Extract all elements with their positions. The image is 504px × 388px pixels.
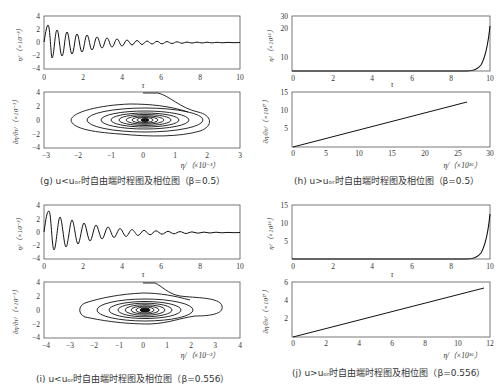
xtick: 4 xyxy=(357,339,361,348)
caption-g: (g) u<uₒᵣ时自由端时程图及相位图（β=0.5） xyxy=(40,174,225,187)
g-time-plot: 4 2 0 −2 −4 0 2 4 6 8 10 τ η/（×10⁻³） xyxy=(16,12,244,90)
h-phase-plot: 15 10 5 0 5 10 15 20 25 30 η/（×10¹⁶） ∂η/… xyxy=(262,88,494,170)
panel-g-plots: 4 2 0 −2 −4 0 2 4 6 8 10 τ η/（×10⁻³） 4 xyxy=(0,0,252,190)
y-axis-label: η/（×10⁻³） xyxy=(16,214,24,251)
panel-h: 30 20 10 0 2 4 6 8 10 τ η/（×10¹⁶） 15 10 … xyxy=(252,0,504,190)
xtick: 4 xyxy=(370,262,374,271)
xtick: 3 xyxy=(238,151,242,160)
xtick: 8 xyxy=(449,74,453,83)
xtick: 5 xyxy=(324,149,328,158)
xtick: −1 xyxy=(115,341,123,350)
panel-h-plots: 30 20 10 0 2 4 6 8 10 τ η/（×10¹⁶） 15 10 … xyxy=(252,0,504,190)
ytick: 15 xyxy=(281,88,289,97)
ytick: 10 xyxy=(281,53,289,62)
damped-oscillation-curve xyxy=(44,25,240,58)
xtick: 2 xyxy=(189,341,193,350)
xtick: 12 xyxy=(486,339,494,348)
caption-h: (h) u>uₒᵣ时自由端时程图及相位图（β=0.5） xyxy=(294,174,479,187)
xtick: 4 xyxy=(370,74,374,83)
xtick: 0 xyxy=(291,74,295,83)
xtick: 4 xyxy=(120,262,124,271)
xtick: 25 xyxy=(454,149,462,158)
panel-g: 4 2 0 −2 −4 0 2 4 6 8 10 τ η/（×10⁻³） 4 xyxy=(0,0,252,190)
ytick: 30 xyxy=(281,12,289,21)
ytick: −4 xyxy=(32,64,40,73)
x-axis-label: η/（×10⁻³） xyxy=(181,351,220,360)
phase-line xyxy=(293,102,467,147)
xtick: 0 xyxy=(291,339,295,348)
panel-j-plots: 15 10 5 0 2 4 6 8 10 τ η/（×10¹⁶） 6 4 2 xyxy=(252,190,504,388)
xtick: 6 xyxy=(390,339,394,348)
ytick: 2 xyxy=(36,102,40,111)
xtick: 10 xyxy=(486,74,494,83)
ytick: 4 xyxy=(36,201,40,210)
x-axis-label: τ xyxy=(142,81,145,90)
phase-line xyxy=(293,288,484,337)
ytick: 2 xyxy=(284,314,288,323)
ytick: −2 xyxy=(32,241,40,250)
ytick: 2 xyxy=(36,215,40,224)
phase-spiral xyxy=(80,283,222,324)
ytick: 0 xyxy=(36,38,40,47)
y-axis-label: η/（×10¹⁶） xyxy=(267,26,275,62)
phase-spiral xyxy=(71,93,210,136)
ytick: −4 xyxy=(32,333,40,342)
xtick: 0 xyxy=(291,149,295,158)
x-axis-label: τ xyxy=(391,270,394,279)
ytick: 4 xyxy=(284,296,288,305)
xtick: 1 xyxy=(173,151,177,160)
xtick: 10 xyxy=(454,339,462,348)
xtick: 10 xyxy=(236,73,244,82)
xtick: 6 xyxy=(159,73,163,82)
x-axis-label: η/（×10¹⁶） xyxy=(443,351,480,360)
xtick: −2 xyxy=(90,341,98,350)
ytick: 0 xyxy=(36,306,40,315)
ytick: 2 xyxy=(36,25,40,34)
j-time-plot: 15 10 5 0 2 4 6 8 10 τ η/（×10¹⁶） xyxy=(267,201,494,279)
x-axis-label: τ xyxy=(142,270,145,279)
xtick: 10 xyxy=(355,149,363,158)
ytick: 0 xyxy=(36,116,40,125)
ytick: −4 xyxy=(32,143,40,152)
xtick: −1 xyxy=(107,151,115,160)
xtick: 0 xyxy=(291,262,295,271)
panel-i: 4 2 0 −2 −4 0 2 4 6 8 10 τ η/（×10⁻³） 4 xyxy=(0,190,252,388)
xtick: 8 xyxy=(198,262,202,271)
x-axis-label: η/（×10⁻³） xyxy=(181,161,220,170)
caption-i: (i) u<uₒᵣ时自由端时程图及相位图（β=0.556） xyxy=(36,372,229,385)
xtick: 8 xyxy=(449,262,453,271)
h-time-plot: 30 20 10 0 2 4 6 8 10 τ η/（×10¹⁶） xyxy=(267,12,494,89)
xtick: −4 xyxy=(42,341,50,350)
y-axis-label: ∂η/∂τ/（×10¹⁷） xyxy=(262,96,270,143)
ytick: 5 xyxy=(284,237,288,246)
ytick: 10 xyxy=(281,219,289,228)
ytick: 10 xyxy=(281,106,289,115)
ytick: 5 xyxy=(284,124,288,133)
xtick: 2 xyxy=(331,74,335,83)
xtick: 4 xyxy=(120,73,124,82)
xtick: 0 xyxy=(42,262,46,271)
xtick: 6 xyxy=(410,74,414,83)
y-axis-label: ∂η/∂τ/（×10¹⁷） xyxy=(262,286,270,333)
xtick: 2 xyxy=(331,262,335,271)
g-phase-plot: 4 2 0 −2 −4 −3 −2 −1 0 1 2 3 η/（×10⁻³） ∂… xyxy=(12,88,242,170)
y-axis-label: ∂η/∂τ/（×10⁻²） xyxy=(12,96,20,144)
ytick: 6 xyxy=(284,278,288,287)
xtick: 3 xyxy=(213,341,217,350)
xtick: 15 xyxy=(388,149,396,158)
ytick: −2 xyxy=(32,320,40,329)
xtick: 2 xyxy=(205,151,209,160)
exponential-growth-curve xyxy=(292,26,490,71)
xtick: −3 xyxy=(42,151,50,160)
ytick: −4 xyxy=(32,254,40,263)
xtick: 0 xyxy=(141,151,145,160)
ytick: 20 xyxy=(281,24,289,33)
y-axis-label: η/（×10¹⁶） xyxy=(267,214,275,250)
y-axis-label: η/（×10⁻³） xyxy=(16,25,24,62)
i-time-plot: 4 2 0 −2 −4 0 2 4 6 8 10 τ η/（×10⁻³） xyxy=(16,201,244,279)
j-phase-plot: 6 4 2 0 2 4 6 8 10 12 η/（×10¹⁶） ∂η/∂τ/（×… xyxy=(262,278,494,360)
xtick: 20 xyxy=(421,149,429,158)
panel-j: 15 10 5 0 2 4 6 8 10 τ η/（×10¹⁶） 6 4 2 xyxy=(252,190,504,388)
x-axis-label: η/（×10¹⁶） xyxy=(443,161,480,170)
damped-oscillation-curve xyxy=(44,211,240,250)
